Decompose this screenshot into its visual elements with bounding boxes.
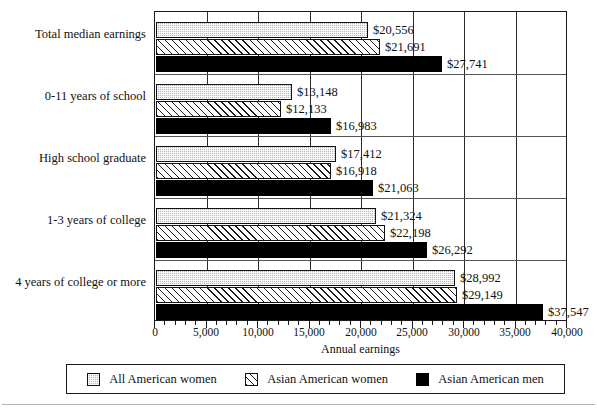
x-tick-minor xyxy=(350,321,351,325)
legend-item-asian-american-men: Asian American men xyxy=(416,372,544,387)
gridline-35000 xyxy=(516,12,517,320)
x-tick-minor xyxy=(247,321,248,325)
x-axis-title: Annual earnings xyxy=(154,342,567,357)
x-tick-label-0: 0 xyxy=(152,326,158,339)
x-tick-minor xyxy=(442,321,443,325)
bar-chart: Total median earnings 0-11 years of scho… xyxy=(0,0,597,418)
x-tick-minor xyxy=(298,321,299,325)
bar-value-label: $16,918 xyxy=(336,165,377,178)
x-tick-minor xyxy=(329,321,330,325)
x-tick-minor xyxy=(535,321,536,325)
x-tick-label-4: 20,000 xyxy=(345,326,377,339)
chart-legend: All American women Asian American women … xyxy=(66,364,565,394)
x-tick-minor xyxy=(525,321,526,325)
bar-women-asian-1 xyxy=(156,101,281,117)
group-separator xyxy=(155,74,566,75)
x-tick-minor xyxy=(391,321,392,325)
y-axis-label-1: 0-11 years of school xyxy=(45,89,146,103)
bar-value-label: $16,983 xyxy=(336,120,377,133)
group-separator xyxy=(155,198,566,199)
bar-women-asian-3 xyxy=(156,225,385,241)
x-tick-minor xyxy=(226,321,227,325)
x-tick-minor xyxy=(267,321,268,325)
legend-item-asian-american-women: Asian American women xyxy=(245,372,388,387)
bar-men-asian-2 xyxy=(156,180,373,196)
page-divider xyxy=(2,404,595,405)
bar-women-all-3 xyxy=(156,208,376,224)
x-tick-minor xyxy=(381,321,382,325)
legend-swatch-icon xyxy=(87,373,100,386)
bar-value-label: $13,148 xyxy=(297,86,338,99)
bar-women-asian-0 xyxy=(156,39,380,55)
x-tick-minor xyxy=(422,321,423,325)
bar-women-all-0 xyxy=(156,22,368,38)
x-tick-minor xyxy=(545,321,546,325)
x-tick-minor xyxy=(432,321,433,325)
bar-women-all-1 xyxy=(156,84,292,100)
x-tick-minor xyxy=(164,321,165,325)
bar-value-label: $21,324 xyxy=(381,210,422,223)
bar-women-all-4 xyxy=(156,270,455,286)
x-tick-minor xyxy=(175,321,176,325)
x-tick-minor xyxy=(401,321,402,325)
x-tick-label-1: 5,000 xyxy=(193,326,219,339)
bar-men-asian-1 xyxy=(156,118,331,134)
x-tick-minor xyxy=(236,321,237,325)
x-tick-label-8: 40,000 xyxy=(551,326,583,339)
bar-value-label: $22,198 xyxy=(390,227,431,240)
y-axis-label-2: High school graduate xyxy=(39,151,146,165)
bar-men-asian-0 xyxy=(156,56,442,72)
x-tick-minor xyxy=(473,321,474,325)
bar-value-label: $26,292 xyxy=(432,244,473,257)
x-tick-minor xyxy=(319,321,320,325)
group-separator xyxy=(155,260,566,261)
bar-value-label: $29,149 xyxy=(462,289,503,302)
x-tick-minor xyxy=(185,321,186,325)
x-tick-minor xyxy=(494,321,495,325)
x-tick-minor xyxy=(504,321,505,325)
bar-value-label: $17,412 xyxy=(341,148,382,161)
bar-women-asian-4 xyxy=(156,287,457,303)
y-axis-labels: Total median earnings 0-11 years of scho… xyxy=(0,11,150,321)
legend-item-all-american-women: All American women xyxy=(87,372,217,387)
y-axis-label-3: 1-3 years of college xyxy=(47,213,146,227)
x-tick-minor xyxy=(370,321,371,325)
bar-value-label: $12,133 xyxy=(286,103,327,116)
legend-swatch-icon xyxy=(416,373,429,386)
bar-value-label: $28,992 xyxy=(460,272,501,285)
bar-women-all-2 xyxy=(156,146,336,162)
x-tick-label-6: 30,000 xyxy=(448,326,480,339)
legend-swatch-icon xyxy=(245,373,258,386)
x-tick-minor xyxy=(484,321,485,325)
group-separator xyxy=(155,136,566,137)
x-tick-label-3: 15,000 xyxy=(293,326,325,339)
x-tick-minor xyxy=(288,321,289,325)
bar-women-asian-2 xyxy=(156,163,331,179)
x-tick-label-7: 35,000 xyxy=(499,326,531,339)
x-tick-label-5: 25,000 xyxy=(396,326,428,339)
bar-men-asian-4 xyxy=(156,304,543,320)
x-tick-minor xyxy=(216,321,217,325)
x-tick-minor xyxy=(556,321,557,325)
legend-label: Asian American women xyxy=(267,372,388,387)
bar-men-asian-3 xyxy=(156,242,427,258)
x-tick-minor xyxy=(453,321,454,325)
y-axis-label-0: Total median earnings xyxy=(35,27,146,41)
bar-value-label: $21,063 xyxy=(378,182,419,195)
bar-value-label: $20,556 xyxy=(373,24,414,37)
legend-label: All American women xyxy=(109,372,217,387)
bar-value-label: $37,547 xyxy=(548,306,589,319)
bar-value-label: $21,691 xyxy=(385,41,426,54)
x-tick-label-2: 10,000 xyxy=(242,326,274,339)
legend-label: Asian American men xyxy=(438,372,544,387)
bar-value-label: $27,741 xyxy=(447,58,488,71)
y-axis-label-4: 4 years of college or more xyxy=(15,275,146,289)
plot-area: $20,556 $21,691 $27,741 $13,148 $12,133 … xyxy=(154,11,567,321)
x-tick-minor xyxy=(339,321,340,325)
x-tick-minor xyxy=(278,321,279,325)
x-tick-minor xyxy=(195,321,196,325)
